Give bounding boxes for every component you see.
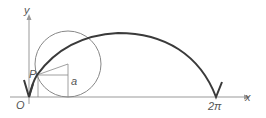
- radius-a-label: a: [71, 75, 77, 87]
- y-axis-label: y: [23, 4, 31, 16]
- cycloid-curve: [24, 33, 222, 97]
- origin-label: O: [16, 99, 25, 111]
- two-pi-label: 2π: [207, 100, 222, 112]
- x-axis-label: x: [244, 91, 251, 103]
- cycloid-diagram: y x O P a 2π: [0, 0, 266, 118]
- point-p-label: P: [29, 68, 37, 80]
